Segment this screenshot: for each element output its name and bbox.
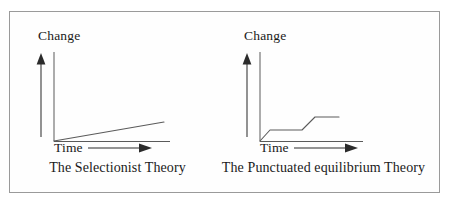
- x-axis-label-group: Time: [54, 141, 154, 155]
- arrow-up-icon: [37, 53, 46, 137]
- arrow-up-icon: [243, 53, 252, 137]
- panel-caption-punctuated: The Punctuated equilibrium Theory: [216, 160, 431, 176]
- panel-punctuated: Change Time The Punctuated equilibrium T…: [216, 12, 431, 194]
- arrow-right-icon: [88, 142, 154, 154]
- x-axis-label: Time: [260, 141, 289, 155]
- figure-frame: Change Time The Selectionist Theory Cha: [9, 11, 440, 193]
- data-line-punctuated: [260, 117, 339, 141]
- data-line-gradual: [54, 122, 164, 141]
- panel-selectionist: Change Time The Selectionist Theory: [10, 12, 225, 194]
- x-axis-label-group: Time: [260, 141, 360, 155]
- panel-caption-selectionist: The Selectionist Theory: [10, 160, 225, 176]
- x-axis-label: Time: [54, 141, 83, 155]
- arrow-right-icon: [294, 142, 360, 154]
